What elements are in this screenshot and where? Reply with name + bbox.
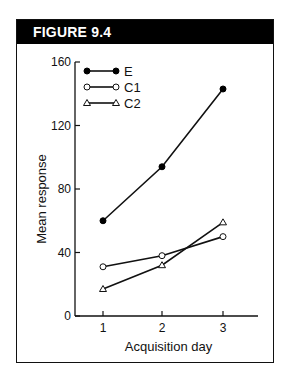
- y-tick-label: 40: [58, 246, 72, 260]
- legend-marker-c1: [84, 84, 90, 90]
- data-point-e: [100, 218, 106, 224]
- y-tick-label: 120: [51, 119, 71, 133]
- x-tick-label: 2: [159, 321, 166, 335]
- legend-marker-c1: [113, 84, 119, 90]
- data-point-c1: [159, 253, 165, 259]
- legend-marker-e: [84, 68, 90, 74]
- data-point-c1: [220, 234, 226, 240]
- series-line-e: [103, 89, 223, 221]
- data-point-e: [220, 86, 226, 92]
- line-chart: 04080120160123Acquisition dayMean respon…: [0, 0, 287, 384]
- y-tick-label: 160: [51, 55, 71, 69]
- legend-label-c1: C1: [124, 80, 141, 95]
- legend-label-e: E: [124, 64, 133, 79]
- legend-marker-e: [113, 68, 119, 74]
- x-tick-label: 3: [220, 321, 227, 335]
- x-axis-label: Acquisition day: [125, 339, 213, 354]
- data-point-c1: [100, 264, 106, 270]
- y-tick-label: 80: [58, 182, 72, 196]
- data-point-c2: [220, 219, 227, 225]
- y-axis-label: Mean response: [34, 154, 49, 244]
- series-line-c1: [103, 237, 223, 267]
- y-tick-label: 0: [64, 309, 71, 323]
- data-point-e: [159, 164, 165, 170]
- legend-label-c2: C2: [124, 96, 141, 111]
- x-tick-label: 1: [100, 321, 107, 335]
